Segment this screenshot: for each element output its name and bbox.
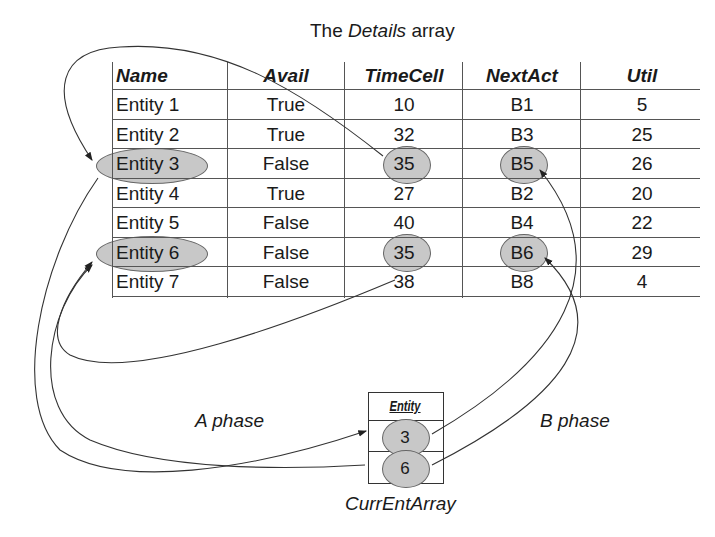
arrow-cea6-to-b6 (432, 258, 578, 465)
arrow-timecell7-to-entity6 (57, 262, 395, 363)
arrow-entity3-to-cea3 (35, 178, 366, 472)
arrows-layer (0, 0, 715, 537)
arrow-cea3-to-b5 (432, 170, 576, 434)
arrow-cea-to-entity6-a (51, 265, 365, 467)
arrow-timecell2-to-entity3 (64, 46, 383, 160)
